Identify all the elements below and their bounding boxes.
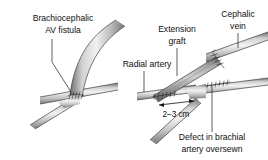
label-graft-length: 2–3 cm [163,110,190,119]
label-cephalic-vein-line1: Cephalic [221,9,255,19]
surgical-illustration: Brachiocephalic AV fistula [0,0,268,160]
label-extension-graft-line1: Extension [158,24,196,34]
leader-brachiocephalic [52,39,71,92]
label-brachiocephalic-line1: Brachiocephalic [33,13,94,23]
label-radial-artery: Radial artery [123,59,172,69]
label-defect-line2: artery oversewn [181,144,242,154]
label-extension-graft-line2: graft [168,36,186,46]
label-cephalic-vein-line2: vein [230,21,246,31]
right-panel-artwork: 2–3 cm Extension graft Cephalic vein Rad… [123,9,268,154]
label-defect-line1: Defect in brachial [179,132,245,142]
label-brachiocephalic-line2: AV fistula [45,25,81,35]
left-panel-artwork: Brachiocephalic AV fistula [30,13,125,129]
